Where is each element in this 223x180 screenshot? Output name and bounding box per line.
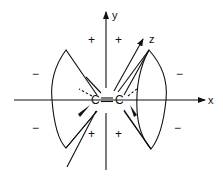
diagram-canvas: x y z C C + + + + − − − − (0, 0, 223, 180)
y-axis-label: y (112, 9, 118, 21)
sign-top-left: + (88, 33, 95, 47)
sign-top-right: + (115, 33, 122, 47)
sign-left-upper: − (32, 67, 39, 81)
orbital-diagram: x y z C C + + + + − − − − (0, 0, 223, 180)
sign-left-lower: − (32, 121, 39, 135)
z-axis-label: z (149, 33, 155, 45)
sign-bottom-left: + (88, 127, 95, 141)
carbon-right: C (115, 93, 124, 107)
wedge-bond-left (78, 105, 90, 117)
x-axis-label: x (208, 94, 214, 106)
sign-bottom-right: + (115, 127, 122, 141)
sign-right-lower: − (174, 121, 181, 135)
wedge-bond-right (130, 105, 137, 117)
sign-right-upper: − (176, 67, 183, 81)
carbon-left: C (91, 93, 100, 107)
